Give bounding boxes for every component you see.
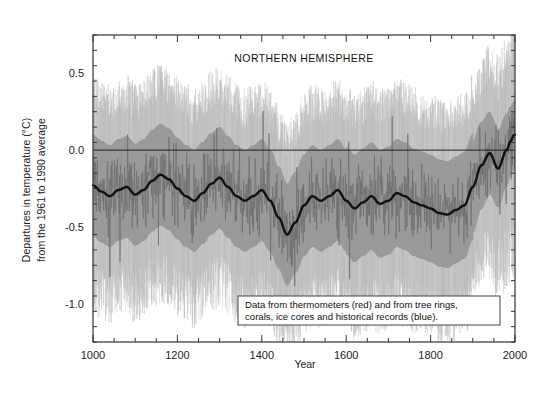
svg-text:1200: 1200 [165, 349, 189, 361]
legend-note-line-1: Data from thermometers (red) and from tr… [245, 299, 458, 310]
climate-figure: (b) the past 1,000 years 100012001400160… [0, 0, 550, 397]
svg-text:-0.5: -0.5 [65, 221, 84, 233]
svg-text:1000: 1000 [81, 349, 105, 361]
svg-text:1800: 1800 [418, 349, 442, 361]
x-axis-title: Year [294, 358, 316, 370]
svg-text:-1.0: -1.0 [65, 298, 84, 310]
y-axis-title-line2: from the 1961 to 1990 average [35, 118, 47, 262]
svg-text:1600: 1600 [334, 349, 358, 361]
svg-text:2000: 2000 [503, 349, 527, 361]
temperature-reconstruction-chart: 100012001400160018002000 0.50.0-0.5-1.0 … [0, 0, 550, 397]
svg-text:1400: 1400 [250, 349, 274, 361]
legend-note-line-2: corals, ice cores and historical records… [245, 311, 438, 322]
y-axis-title-line1: Departures in temperature (°C) [20, 118, 32, 262]
hemisphere-annotation: NORTHERN HEMISPHERE [234, 52, 373, 64]
svg-text:0.5: 0.5 [69, 67, 84, 79]
legend-box: Data from thermometers (red) and from tr… [238, 296, 500, 325]
svg-text:0.0: 0.0 [69, 144, 84, 156]
